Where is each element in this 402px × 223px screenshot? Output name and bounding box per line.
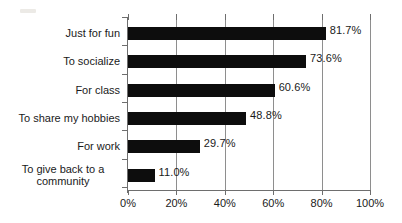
category-label: For work [2,140,120,153]
category-label: For class [2,84,120,97]
x-tick-80pct [322,190,323,195]
category-label-line: community [6,175,120,188]
x-tick-0pct [128,190,129,195]
category-label-line: To give back to a [6,163,120,176]
x-axis-tick-label: 0% [120,197,136,210]
x-axis-line [127,190,371,191]
bar [128,55,306,68]
scan-artifact [20,9,36,13]
bar-chart: 81.7%73.6%60.6%48.8%29.7%11.0% Just for … [0,0,402,223]
bar-row: 11.0% [128,162,370,190]
x-axis-tick-label: 20% [165,197,187,210]
gridline-100pct [370,20,371,190]
bar [128,84,275,97]
x-tick-20pct [176,190,177,195]
x-tick-100pct [370,190,371,195]
bar-value-label: 11.0% [159,166,190,179]
bar-value-label: 60.6% [279,81,311,94]
bar-row: 48.8% [128,105,370,133]
category-label: To share my hobbies [2,112,120,125]
bar-row: 81.7% [128,20,370,48]
y-tick-0 [122,17,128,18]
bar [128,112,246,125]
x-axis-tick-label: 40% [214,197,236,210]
bar [128,27,326,40]
bar-row: 73.6% [128,48,370,76]
bar [128,169,155,182]
x-axis-tick-label: 100% [356,197,384,210]
bar-row: 29.7% [128,133,370,161]
bar-row: 60.6% [128,77,370,105]
bar-value-label: 48.8% [250,109,282,122]
bar-value-label: 81.7% [330,24,362,37]
category-label: To give back to acommunity [6,163,124,188]
x-tick-40pct [225,190,226,195]
bar-value-label: 29.7% [204,137,236,150]
bar [128,140,200,153]
plot-area: 81.7%73.6%60.6%48.8%29.7%11.0% [128,20,370,190]
bar-value-label: 73.6% [310,52,342,65]
x-axis-tick-label: 80% [311,197,333,210]
x-tick-60pct [273,190,274,195]
category-label: To socialize [2,55,120,68]
x-axis-tick-label: 60% [262,197,284,210]
category-label: Just for fun [2,27,120,40]
